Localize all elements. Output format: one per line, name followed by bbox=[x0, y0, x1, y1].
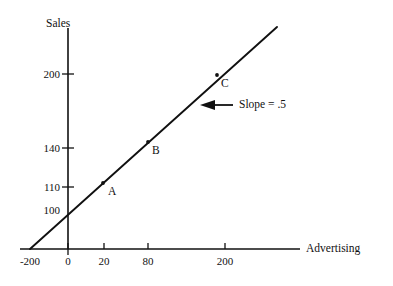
y-tick-label-110: 110 bbox=[36, 182, 60, 193]
data-point-a bbox=[101, 181, 105, 185]
data-point-b bbox=[146, 140, 150, 144]
data-point-c bbox=[215, 73, 219, 77]
data-point-label-c: C bbox=[221, 78, 229, 89]
chart-figure: Sales 200 140 110 100 -200 0 20 80 200 A… bbox=[0, 0, 393, 286]
x-tick-label-minus200: -200 bbox=[12, 256, 48, 267]
data-point-label-b: B bbox=[152, 145, 160, 156]
sales-line bbox=[30, 27, 277, 249]
y-axis-title: Sales bbox=[46, 18, 70, 29]
y-tick-label-140: 140 bbox=[36, 143, 60, 154]
x-axis-title: Advertising bbox=[306, 243, 360, 254]
x-tick-label-20: 20 bbox=[92, 256, 116, 267]
x-tick-label-0: 0 bbox=[56, 256, 80, 267]
x-tick-label-80: 80 bbox=[136, 256, 160, 267]
slope-arrow-icon bbox=[200, 100, 233, 110]
slope-annotation-label: Slope = .5 bbox=[239, 99, 286, 110]
y-tick-label-100: 100 bbox=[36, 205, 60, 216]
data-point-label-a: A bbox=[108, 186, 116, 197]
x-tick-label-200: 200 bbox=[211, 256, 239, 267]
y-tick-label-200: 200 bbox=[36, 69, 60, 80]
